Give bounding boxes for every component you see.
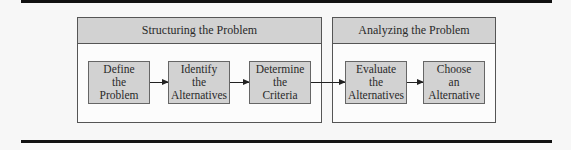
top-rule bbox=[21, 0, 552, 3]
arrow-identify-to-determine bbox=[230, 82, 249, 83]
step-define-problem: Define the Problem bbox=[88, 61, 150, 104]
arrow-evaluate-to-choose bbox=[407, 82, 423, 83]
bottom-rule bbox=[21, 140, 552, 143]
step-choose-alternative: Choose an Alternative bbox=[423, 61, 485, 104]
step-evaluate-alternatives: Evaluate the Alternatives bbox=[345, 61, 407, 104]
phase-header-structuring: Structuring the Problem bbox=[78, 18, 321, 44]
arrow-determine-to-evaluate bbox=[311, 82, 345, 83]
phase-header-analyzing: Analyzing the Problem bbox=[333, 18, 495, 44]
arrow-define-to-identify bbox=[150, 82, 168, 83]
step-determine-criteria: Determine the Criteria bbox=[249, 61, 311, 104]
step-identify-alternatives: Identify the Alternatives bbox=[168, 61, 230, 104]
